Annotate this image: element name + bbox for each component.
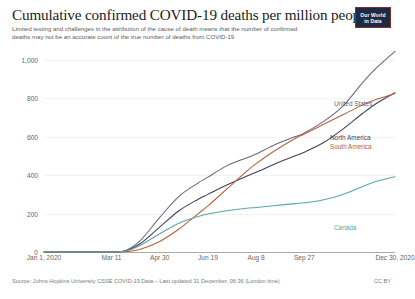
x-axis-tick-label: Mar 11 <box>101 254 121 262</box>
source-note: Source: Johns Hopkins University CSSE CO… <box>12 277 280 285</box>
x-axis-tick-label: Aug 8 <box>248 254 265 262</box>
logo-line-2: in Data <box>364 18 381 24</box>
x-axis-tick-label: Apr 30 <box>150 254 169 262</box>
chart-subtitle: Limited testing and challenges in the at… <box>12 25 304 42</box>
x-axis-tick-label: Jan 1, 2020 <box>27 254 61 262</box>
series-label-canada[interactable]: Canada <box>334 224 356 232</box>
x-axis-tick-label: Jun 19 <box>198 254 218 262</box>
series-label-north-america[interactable]: North America <box>330 134 371 142</box>
plot-area: 1,0008006004002000 United StatesNorth Am… <box>0 52 403 268</box>
license-label[interactable]: CC BY <box>374 277 391 285</box>
x-axis-tick-label: Sep 27 <box>294 254 315 262</box>
page-title: Cumulative confirmed COVID-19 deaths per… <box>12 6 391 23</box>
series-lines <box>0 52 403 268</box>
series-label-south-america[interactable]: South America <box>330 143 372 151</box>
chart-header: Cumulative confirmed COVID-19 deaths per… <box>12 6 391 48</box>
chart-footer: Source: Johns Hopkins University CSSE CO… <box>12 277 391 287</box>
x-axis: Jan 1, 2020Mar 11Apr 30Jun 19Aug 8Sep 27… <box>0 254 403 268</box>
series-label-united-states[interactable]: United States <box>334 100 372 108</box>
series-line <box>44 51 395 252</box>
x-axis-tick-label: Dec 30, 2020 <box>375 254 414 262</box>
our-world-in-data-logo[interactable]: Our World in Data <box>355 7 391 28</box>
